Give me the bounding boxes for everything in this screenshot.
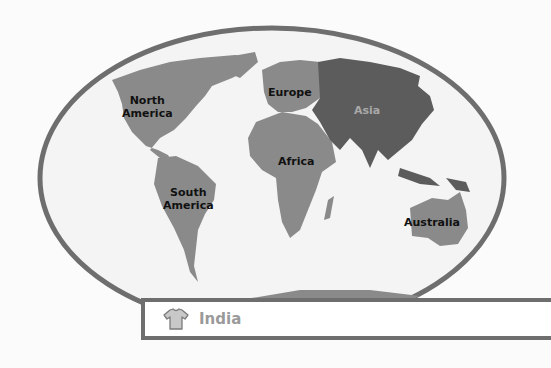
label-europe: Europe: [268, 86, 312, 99]
label-north-america-line2: America: [122, 107, 173, 120]
answer-box[interactable]: India: [141, 298, 551, 340]
label-asia: Asia: [354, 104, 380, 117]
label-africa: Africa: [278, 155, 314, 168]
label-south-america-line2: America: [163, 199, 214, 212]
label-north-america-line1: North: [122, 94, 173, 107]
label-north-america: North America: [122, 94, 173, 120]
t-shirt-icon: [163, 308, 189, 330]
label-south-america-line1: South: [163, 186, 214, 199]
label-south-america: South America: [163, 186, 214, 212]
label-australia: Australia: [404, 216, 460, 229]
answer-country-text: India: [199, 310, 241, 328]
